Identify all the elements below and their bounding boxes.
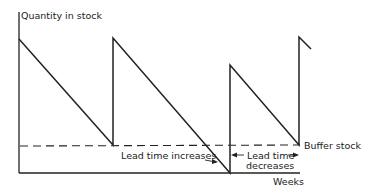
buffer-stock-line [20,145,300,146]
lead-time-decreases-label-2: decreases [246,160,294,171]
x-axis-label: Weeks [273,176,304,187]
y-axis-label: Quantity in stock [21,10,102,21]
stock-sawtooth-diagram [0,0,371,194]
lead-time-increases-label: Lead time increases [121,150,216,161]
arrowhead-decrease-left-icon [231,153,237,158]
buffer-stock-label: Buffer stock [304,140,361,151]
